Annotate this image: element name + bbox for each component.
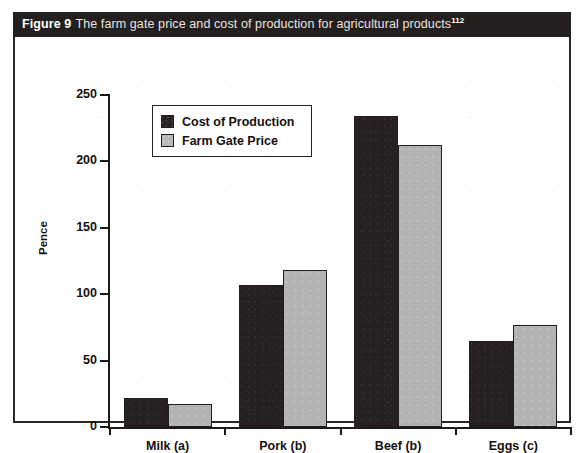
bar (513, 325, 557, 427)
x-axis-tick-label: Beef (b) (341, 439, 456, 453)
y-axis-tick (100, 360, 108, 362)
y-axis-tick (100, 227, 108, 229)
x-axis-tick (455, 427, 457, 435)
x-axis-tick (224, 427, 226, 435)
y-axis-tick (100, 293, 108, 295)
y-axis-tick-label: 50 (37, 353, 97, 367)
y-axis-tick (100, 426, 108, 428)
figure-container: Figure 9The farm gate price and cost of … (13, 12, 571, 423)
bar (168, 404, 212, 427)
x-axis-tick-label: Pork (b) (225, 439, 340, 453)
legend-swatch-farm-gate-price (161, 134, 174, 147)
plot-area: Pence 050100150200250 Milk (a)Pork (b)Be… (13, 37, 571, 423)
bar (124, 398, 168, 427)
bar (354, 116, 398, 427)
x-axis-tick-label: Eggs (c) (456, 439, 571, 453)
y-axis-tick-label: 0 (37, 419, 97, 433)
y-axis-tick (100, 160, 108, 162)
y-axis-tick-label: 150 (37, 220, 97, 234)
y-axis-line (108, 94, 110, 429)
y-axis-tick-label: 250 (37, 87, 97, 101)
figure-title-text: Figure 9The farm gate price and cost of … (22, 16, 464, 31)
legend-label-cost-of-production: Cost of Production (182, 115, 295, 129)
figure-title-bar: Figure 9The farm gate price and cost of … (13, 12, 571, 37)
figure-footnote-marker: 112 (451, 16, 464, 25)
y-axis-tick (100, 94, 108, 96)
figure-number: Figure 9 (22, 17, 71, 31)
legend-item: Farm Gate Price (161, 131, 295, 150)
bar (239, 285, 283, 427)
bar (469, 341, 513, 427)
legend-swatch-cost-of-production (161, 115, 174, 128)
legend-item: Cost of Production (161, 112, 295, 131)
x-axis-tick (570, 427, 572, 435)
x-axis-tick-label: Milk (a) (110, 439, 225, 453)
x-axis-tick (340, 427, 342, 435)
figure-caption: The farm gate price and cost of producti… (75, 17, 451, 31)
bar (398, 145, 442, 427)
y-axis-tick-label: 100 (37, 286, 97, 300)
y-axis-tick-label: 200 (37, 153, 97, 167)
chart-legend: Cost of Production Farm Gate Price (152, 105, 312, 157)
x-axis-tick (109, 427, 111, 435)
bar (283, 270, 327, 427)
legend-label-farm-gate-price: Farm Gate Price (182, 134, 278, 148)
